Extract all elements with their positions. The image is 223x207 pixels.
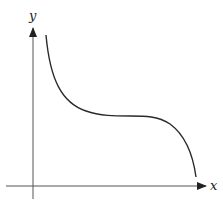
graph-canvas: y x (0, 0, 223, 207)
x-axis-label: x (210, 178, 218, 193)
y-axis-label: y (28, 8, 37, 23)
function-curve (46, 35, 196, 177)
